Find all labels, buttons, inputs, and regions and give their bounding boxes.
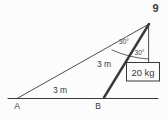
strut-length-label: 3 m bbox=[97, 59, 111, 69]
ground-length-label: 3 m bbox=[53, 85, 67, 95]
physics-diagram: 9 30° 30° 3 m 3 m 20 kg A B bbox=[0, 0, 167, 120]
problem-number: 9 bbox=[152, 2, 158, 14]
angle-top-label: 30° bbox=[119, 38, 129, 45]
cable-line bbox=[17, 24, 149, 99]
point-a-label: A bbox=[14, 101, 20, 111]
point-b-label: B bbox=[95, 101, 101, 111]
angle-lower-label: 30° bbox=[135, 49, 145, 56]
mass-box-label: 20 kg bbox=[131, 67, 154, 78]
diagram-canvas: 9 30° 30° 3 m 3 m 20 kg A B bbox=[0, 0, 167, 120]
